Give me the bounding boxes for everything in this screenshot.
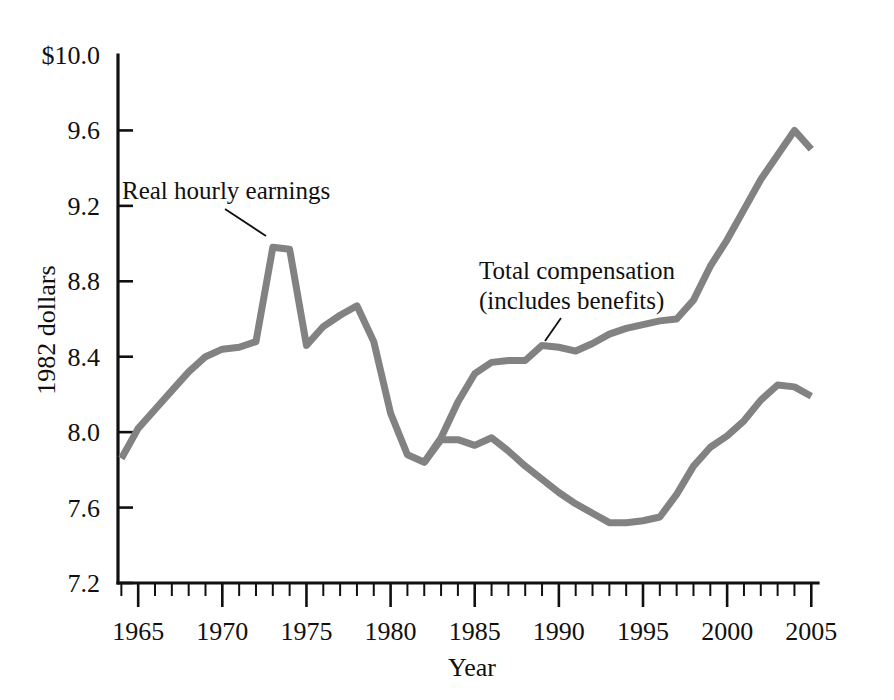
y-tick-label: 8.0: [68, 418, 101, 447]
x-tick-label: 1965: [112, 617, 164, 646]
y-tick-label: 8.8: [68, 267, 101, 296]
line-chart-plot: $10.09.69.28.88.48.07.67.2 1965197019751…: [0, 0, 894, 700]
x-tick-label: 1995: [617, 617, 669, 646]
x-tick-label: 1980: [365, 617, 417, 646]
x-axis-tick-labels: 196519701975198019851990199520002005: [112, 617, 837, 646]
series-annotation-label: Total compensation(includes benefits): [479, 257, 676, 315]
y-tick-label: 7.2: [68, 569, 101, 598]
x-tick-label: 2000: [701, 617, 753, 646]
y-tick-label: 9.2: [68, 192, 101, 221]
x-tick-label: 1975: [280, 617, 332, 646]
y-tick-label: 7.6: [68, 494, 101, 523]
x-tick-label: 1985: [449, 617, 501, 646]
y-tick-label: 8.4: [68, 343, 101, 372]
annotation-leader-line: [545, 318, 561, 341]
y-tick-label: $10.0: [42, 41, 101, 70]
y-tick-label: 9.6: [68, 116, 101, 145]
x-axis-title: Year: [448, 653, 496, 682]
chart-figure: $10.09.69.28.88.48.07.67.2 1965197019751…: [0, 0, 894, 700]
y-axis-title: 1982 dollars: [32, 265, 61, 394]
x-tick-label: 1970: [196, 617, 248, 646]
x-tick-label: 2005: [785, 617, 837, 646]
series-annotation-label: Real hourly earnings: [122, 177, 330, 204]
x-tick-label: 1990: [533, 617, 585, 646]
series-line: [424, 385, 811, 523]
annotation-group: Real hourly earningsTotal compensation(i…: [122, 177, 676, 341]
annotation-leader-line: [225, 209, 266, 236]
